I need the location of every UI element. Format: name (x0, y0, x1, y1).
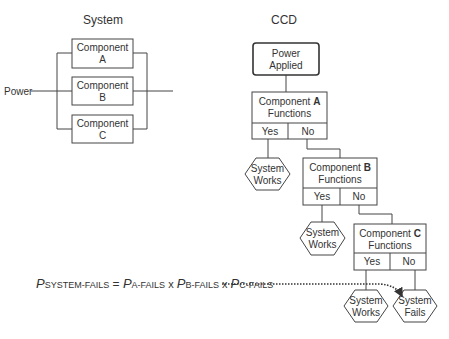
ccd-decision-c: Component C Functions Yes No (354, 224, 426, 270)
system-component-c: Component C (72, 115, 133, 143)
svg-text:Component: Component (77, 80, 129, 91)
ccd-title: CCD (271, 13, 297, 27)
svg-text:C: C (99, 130, 106, 141)
ccd-start-power-applied: Power Applied (253, 43, 319, 75)
svg-text:System: System (349, 295, 382, 306)
svg-text:Component: Component (77, 42, 129, 53)
yes-label: Yes (262, 126, 278, 137)
outcome-system-works-a: System Works (245, 158, 290, 190)
no-label: No (353, 191, 366, 202)
outcome-system-works-c: System Works (344, 290, 388, 322)
ccd-decision-a: Component A Functions Yes No (252, 92, 327, 139)
svg-text:Fails: Fails (404, 307, 425, 318)
system-title: System (83, 13, 123, 27)
svg-text:System: System (306, 227, 339, 238)
svg-text:Component: Component (77, 118, 129, 129)
svg-text:Component A: Component A (259, 96, 321, 107)
ccd-decision-b: Component B Functions Yes No (303, 158, 377, 205)
power-label: Power (4, 86, 33, 97)
outcome-system-works-b: System Works (300, 222, 345, 255)
svg-text:System: System (398, 295, 431, 306)
svg-text:Functions: Functions (368, 240, 411, 251)
outcome-system-fails: System Fails (393, 290, 437, 322)
svg-text:Functions: Functions (318, 174, 361, 185)
svg-text:Component B: Component B (309, 162, 371, 173)
svg-text:A: A (99, 54, 106, 65)
svg-text:Applied: Applied (269, 60, 302, 71)
yes-label: Yes (314, 191, 330, 202)
svg-text:System: System (251, 163, 284, 174)
diagram-canvas: System Power Component A Component B Com… (0, 0, 449, 339)
svg-text:B: B (99, 92, 106, 103)
system-component-a: Component A (72, 39, 133, 68)
system-component-b: Component B (72, 77, 133, 105)
svg-text:Power: Power (272, 48, 301, 59)
no-label: No (302, 126, 315, 137)
svg-text:Works: Works (253, 175, 281, 186)
svg-text:Functions: Functions (268, 108, 311, 119)
svg-text:Works: Works (352, 307, 380, 318)
svg-text:Works: Works (308, 239, 336, 250)
svg-text:Component C: Component C (359, 228, 421, 239)
yes-label: Yes (364, 256, 380, 267)
no-label: No (403, 256, 416, 267)
